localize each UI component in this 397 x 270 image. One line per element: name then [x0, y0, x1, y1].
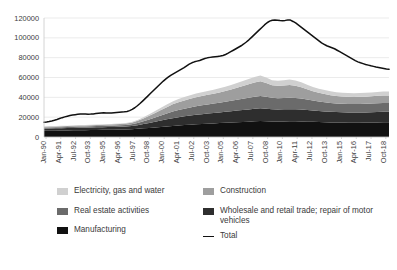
legend-swatch-icon [57, 188, 68, 195]
x-tick-label: Jul-07 [246, 141, 255, 161]
legend-swatch-icon [203, 208, 214, 215]
legend-item[interactable]: Construction [203, 186, 393, 197]
x-tick-label: Jul-02 [187, 141, 196, 161]
legend-item-label: Manufacturing [74, 225, 126, 236]
x-tick-label: Apr-96 [113, 141, 122, 163]
x-tick-label: Apr-01 [172, 141, 181, 163]
y-tick-label: 20000 [18, 113, 39, 122]
y-axis-labels: 120000100000800006000040000200000 [14, 14, 39, 142]
area-bands [44, 75, 389, 137]
x-tick-label: Oct-13 [320, 141, 329, 163]
y-tick-label: 0 [35, 133, 39, 142]
legend-item[interactable]: Manufacturing [57, 225, 207, 236]
x-tick-label: Apr-11 [290, 141, 299, 163]
x-tick-label: Oct-18 [379, 141, 388, 163]
x-tick-label: Apr-06 [231, 141, 240, 163]
legend-swatch-icon [57, 227, 68, 234]
x-tick-label: Apr-16 [349, 141, 358, 163]
x-tick-label: Jan-10 [275, 141, 284, 164]
y-tick-label: 100000 [14, 33, 39, 42]
legend-item[interactable]: Wholesale and retail trade; repair of mo… [203, 206, 393, 227]
legend-item-label: Real estate activities [74, 206, 149, 217]
x-tick-label: Jan-15 [335, 141, 344, 164]
y-tick-label: 80000 [18, 53, 39, 62]
legend-swatch-icon [57, 208, 68, 215]
legend-line-marker-icon [203, 236, 214, 237]
x-tick-label: Apr-91 [54, 141, 63, 163]
legend-item[interactable]: Electricity, gas and water [57, 186, 207, 197]
x-tick-label: Oct-08 [261, 141, 270, 163]
x-tick-label: Oct-98 [142, 141, 151, 163]
y-tick-label: 40000 [18, 93, 39, 102]
legend-item-label: Construction [220, 186, 266, 197]
legend-item-label: Wholesale and retail trade; repair of mo… [220, 206, 393, 227]
x-tick-label: Jul-17 [364, 141, 373, 161]
legend-item[interactable]: Real estate activities [57, 206, 207, 217]
legend-column-right: ConstructionWholesale and retail trade; … [203, 186, 393, 250]
x-axis-labels: Jan-90Apr-91Jul-92Oct-93Jan-95Apr-96Jul-… [39, 141, 388, 164]
x-tick-label: Jan-00 [157, 141, 166, 164]
chart-container: 120000100000800006000040000200000 Jan-90… [0, 0, 397, 270]
legend-column-left: Electricity, gas and waterReal estate ac… [57, 186, 207, 245]
x-tick-label: Jul-12 [305, 141, 314, 161]
legend-item-label: Electricity, gas and water [74, 186, 164, 197]
x-tick-label: Jan-05 [216, 141, 225, 164]
x-tick-label: Oct-93 [83, 141, 92, 163]
x-tick-label: Oct-03 [202, 141, 211, 163]
x-tick-label: Jan-90 [39, 141, 48, 164]
x-tick-label: Jan-95 [98, 141, 107, 164]
legend-item[interactable]: Total [203, 231, 393, 242]
x-tick-label: Jul-92 [69, 141, 78, 161]
legend-swatch-icon [203, 188, 214, 195]
legend-item-label: Total [220, 231, 237, 242]
chart-legend: Electricity, gas and waterReal estate ac… [0, 186, 397, 270]
x-tick-label: Jul-97 [128, 141, 137, 161]
y-tick-label: 120000 [14, 14, 39, 23]
y-tick-label: 60000 [18, 73, 39, 82]
